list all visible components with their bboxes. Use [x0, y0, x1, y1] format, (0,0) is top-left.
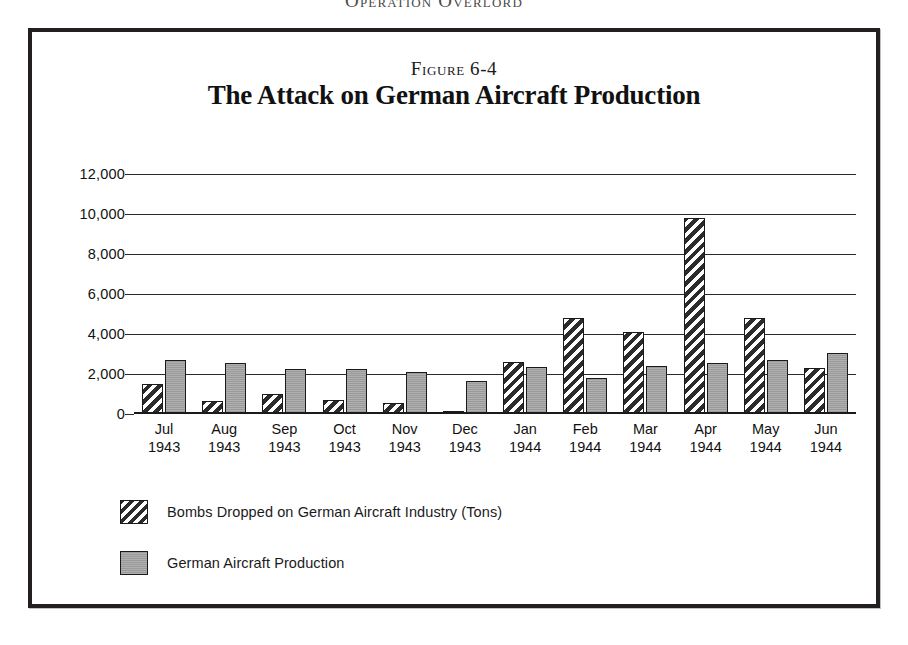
x-tick-label: Oct1943 — [315, 420, 375, 456]
x-tick-label: May1944 — [736, 420, 796, 456]
chart-plot-area: 02,0004,0006,0008,00010,00012,000 — [134, 174, 856, 414]
bar-bombs-dropped — [503, 362, 524, 414]
y-tick-label: 12,000 — [79, 166, 125, 182]
legend-label: Bombs Dropped on German Aircraft Industr… — [167, 504, 502, 520]
x-tick-month: Apr — [676, 420, 736, 438]
legend-swatch-production — [120, 551, 148, 575]
x-tick-label: Jun1944 — [796, 420, 856, 456]
y-tick-mark — [125, 174, 134, 175]
x-tick-month: Mar — [615, 420, 675, 438]
bar-group — [315, 174, 375, 414]
x-tick-month: Aug — [194, 420, 254, 438]
bar-aircraft-production — [767, 360, 788, 414]
bar-bombs-dropped — [744, 318, 765, 414]
figure-frame: Figure 6-4 The Attack on German Aircraft… — [28, 28, 880, 608]
x-tick-year: 1944 — [676, 438, 736, 456]
x-tick-label: Dec1943 — [435, 420, 495, 456]
running-header: Operation Overlord — [0, 0, 908, 12]
figure-number: Figure 6-4 — [32, 58, 876, 80]
figure-title: The Attack on German Aircraft Production — [32, 80, 876, 111]
x-tick-month: Jul — [134, 420, 194, 438]
x-tick-year: 1944 — [796, 438, 856, 456]
y-tick-mark — [125, 254, 134, 255]
x-tick-year: 1944 — [555, 438, 615, 456]
bar-aircraft-production — [646, 366, 667, 414]
x-tick-month: Jun — [796, 420, 856, 438]
x-tick-label: Jul1943 — [134, 420, 194, 456]
x-tick-label: Apr1944 — [676, 420, 736, 456]
chart-legend: Bombs Dropped on German Aircraft Industr… — [120, 500, 720, 602]
x-tick-label: Aug1943 — [194, 420, 254, 456]
x-tick-month: Sep — [254, 420, 314, 438]
x-tick-label: Jan1944 — [495, 420, 555, 456]
bar-aircraft-production — [707, 363, 728, 414]
bar-group — [134, 174, 194, 414]
x-tick-year: 1943 — [254, 438, 314, 456]
legend-label: German Aircraft Production — [167, 555, 344, 571]
x-tick-month: May — [736, 420, 796, 438]
y-tick-label: 8,000 — [88, 246, 125, 262]
bars-layer — [134, 174, 856, 414]
x-tick-month: Jan — [495, 420, 555, 438]
y-tick-label: 10,000 — [79, 206, 125, 222]
bar-group — [796, 174, 856, 414]
bar-aircraft-production — [526, 367, 547, 414]
y-tick-mark — [125, 414, 134, 415]
legend-item: Bombs Dropped on German Aircraft Industr… — [120, 500, 720, 524]
y-tick-label: 2,000 — [88, 366, 125, 382]
x-tick-year: 1944 — [615, 438, 675, 456]
y-tick-mark — [125, 214, 134, 215]
y-tick-mark — [125, 294, 134, 295]
bar-aircraft-production — [406, 372, 427, 414]
bar-group — [495, 174, 555, 414]
y-tick-label: 0 — [117, 406, 125, 422]
x-tick-month: Dec — [435, 420, 495, 438]
bar-group — [254, 174, 314, 414]
y-tick-mark — [125, 334, 134, 335]
bar-bombs-dropped — [684, 218, 705, 414]
bar-aircraft-production — [466, 381, 487, 414]
bar-bombs-dropped — [563, 318, 584, 414]
y-tick-mark — [125, 374, 134, 375]
legend-item: German Aircraft Production — [120, 551, 720, 575]
x-tick-label: Feb1944 — [555, 420, 615, 456]
x-tick-month: Nov — [375, 420, 435, 438]
bar-group — [375, 174, 435, 414]
x-tick-year: 1943 — [134, 438, 194, 456]
x-tick-year: 1943 — [194, 438, 254, 456]
x-tick-year: 1944 — [495, 438, 555, 456]
bar-bombs-dropped — [142, 384, 163, 414]
bar-group — [194, 174, 254, 414]
bar-aircraft-production — [165, 360, 186, 414]
x-axis-line — [134, 412, 856, 414]
x-tick-year: 1943 — [375, 438, 435, 456]
x-tick-month: Oct — [315, 420, 375, 438]
bar-bombs-dropped — [623, 332, 644, 414]
x-tick-year: 1944 — [736, 438, 796, 456]
bar-group — [435, 174, 495, 414]
x-tick-year: 1943 — [315, 438, 375, 456]
bar-group — [555, 174, 615, 414]
y-tick-label: 4,000 — [88, 326, 125, 342]
bar-aircraft-production — [586, 378, 607, 414]
x-tick-year: 1943 — [435, 438, 495, 456]
legend-swatch-bombs — [120, 500, 148, 524]
y-tick-label: 6,000 — [88, 286, 125, 302]
x-tick-label: Nov1943 — [375, 420, 435, 456]
x-tick-label: Mar1944 — [615, 420, 675, 456]
bar-group — [615, 174, 675, 414]
bar-aircraft-production — [827, 353, 848, 414]
x-tick-month: Feb — [555, 420, 615, 438]
x-axis-labels: Jul1943Aug1943Sep1943Oct1943Nov1943Dec19… — [134, 420, 856, 476]
bar-group — [676, 174, 736, 414]
x-tick-label: Sep1943 — [254, 420, 314, 456]
bar-aircraft-production — [346, 369, 367, 414]
bar-bombs-dropped — [262, 394, 283, 414]
bar-bombs-dropped — [804, 368, 825, 414]
bar-group — [736, 174, 796, 414]
bar-aircraft-production — [225, 363, 246, 414]
bar-aircraft-production — [285, 369, 306, 414]
